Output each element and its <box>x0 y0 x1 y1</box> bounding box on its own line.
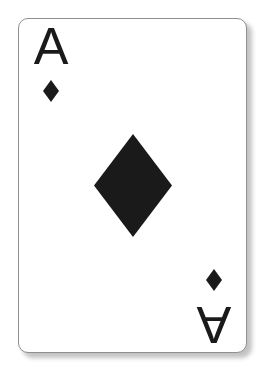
corner-index-top-left: A <box>22 23 80 102</box>
center-pip-inner <box>94 134 172 241</box>
corner-rank-bottom-right: A <box>185 300 243 348</box>
corner-pip-bottom-right-wrap <box>185 269 243 291</box>
diamond-icon <box>94 134 172 237</box>
corner-index-bottom-right: A <box>185 269 243 348</box>
card-scene: A A <box>0 0 270 382</box>
corner-pip-top-left-wrap <box>22 80 80 102</box>
diamond-icon <box>206 269 222 291</box>
diamond-icon <box>43 80 59 102</box>
playing-card-ace-of-diamonds[interactable]: A A <box>18 18 247 353</box>
corner-rank-top-left: A <box>22 23 80 71</box>
